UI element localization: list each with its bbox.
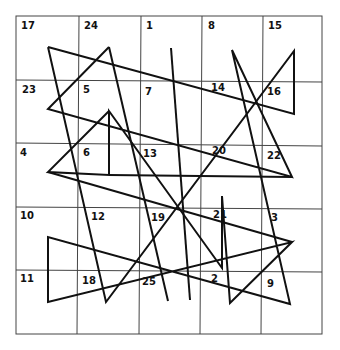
puzzle-drawing <box>0 0 340 350</box>
cell-number: 10 <box>20 210 34 221</box>
cell-number: 2 <box>211 273 218 284</box>
magic-square-line-puzzle: 17 24 1 8 15 23 5 7 14 16 4 6 13 20 22 1… <box>0 0 340 350</box>
cell-number: 25 <box>142 276 156 287</box>
cell-number: 12 <box>91 211 105 222</box>
cell-number: 6 <box>83 147 90 158</box>
cell-number: 20 <box>212 145 226 156</box>
cell-number: 15 <box>268 20 282 31</box>
cell-number: 24 <box>84 20 98 31</box>
cell-number: 19 <box>151 212 165 223</box>
cell-number: 14 <box>211 82 225 93</box>
cell-number: 16 <box>267 86 281 97</box>
cell-number: 1 <box>146 20 153 31</box>
cell-number: 11 <box>20 273 34 284</box>
cell-number: 3 <box>271 212 278 223</box>
cell-number: 22 <box>267 150 281 161</box>
cell-number: 18 <box>82 275 96 286</box>
cell-number: 23 <box>22 84 36 95</box>
cell-number: 13 <box>143 148 157 159</box>
cell-number: 7 <box>145 86 152 97</box>
cell-number: 17 <box>21 20 35 31</box>
cell-number: 21 <box>213 209 227 220</box>
cell-number: 4 <box>20 147 27 158</box>
cell-number: 5 <box>83 84 90 95</box>
cell-number: 9 <box>267 278 274 289</box>
cell-number: 8 <box>208 20 215 31</box>
